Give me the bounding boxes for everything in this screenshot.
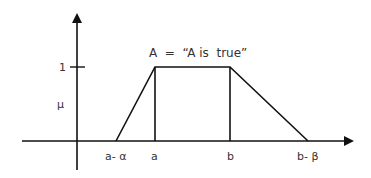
x-label-b: b <box>227 150 234 163</box>
x-label-b-minus-beta: b- β <box>297 150 318 163</box>
diagram-title: A = “A is true” <box>149 46 247 60</box>
trapezoid-membership-curve <box>116 67 308 141</box>
x-label-a: a <box>151 150 158 163</box>
y-tick-label-one: 1 <box>59 61 66 74</box>
y-axis-label-mu: μ <box>57 98 64 111</box>
membership-function-diagram: A = “A is true” 1 μ a- α a b b- β <box>0 0 371 178</box>
x-label-a-minus-alpha: a- α <box>105 150 126 163</box>
